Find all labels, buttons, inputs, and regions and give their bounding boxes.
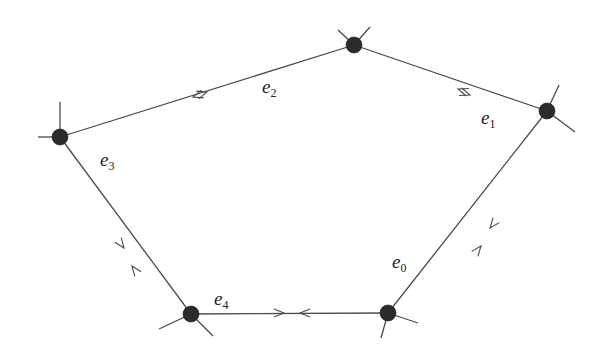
vertex-v_br (380, 305, 396, 321)
vertex-v_top (346, 37, 362, 53)
edge-label-e1: e1 (481, 107, 495, 131)
edge-label-e4: e4 (214, 288, 228, 312)
arrows-layer (115, 88, 499, 317)
vertex-v_bl (183, 306, 199, 322)
arrowhead-icon (115, 238, 124, 248)
stubs-layer (38, 27, 575, 338)
edge-e2 (60, 45, 354, 137)
edge-e4 (191, 313, 388, 314)
vertex-v_right (539, 103, 555, 119)
edge-label-e0: e0 (392, 251, 406, 275)
edge-e3 (60, 137, 191, 314)
pentagon-diagram: e0 e1 e2 e3 e4 (0, 0, 614, 355)
edges-layer (60, 45, 547, 314)
arrowhead-icon (472, 246, 481, 256)
vertices-layer (52, 37, 555, 322)
edge-e1 (354, 45, 547, 111)
arrowhead-icon (132, 266, 141, 276)
edge-label-e3: e3 (100, 149, 114, 173)
labels-layer: e0 e1 e2 e3 e4 (100, 76, 495, 312)
vertex-v_left (52, 129, 68, 145)
edge-label-e2: e2 (262, 76, 276, 100)
arrowhead-icon (490, 218, 499, 228)
edge-e0 (388, 111, 547, 313)
